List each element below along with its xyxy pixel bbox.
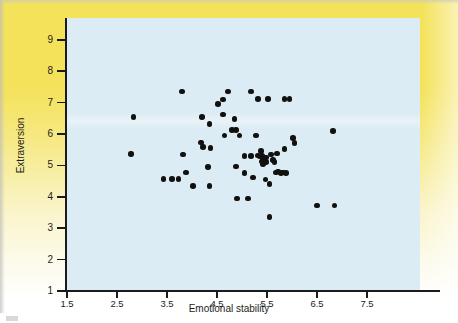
y-tick-label: 6 (31, 129, 53, 139)
data-point (234, 196, 240, 202)
x-tick-mark (316, 291, 318, 298)
y-tick-label: 5 (31, 160, 53, 170)
y-tick-label: 1 (31, 286, 53, 296)
data-point (233, 164, 239, 170)
y-tick-label: 9 (31, 35, 53, 45)
y-axis-line (65, 18, 67, 292)
caption-marker (6, 316, 18, 321)
y-axis-title: Extraversion (15, 98, 26, 194)
data-point (220, 112, 226, 118)
x-tick-mark (266, 291, 268, 298)
y-tick-label: 3 (31, 223, 53, 233)
data-point (282, 146, 288, 152)
y-tick-label: 4 (31, 192, 53, 202)
data-point (180, 152, 186, 158)
data-point (274, 151, 280, 157)
page-edge-top (0, 0, 458, 4)
y-tick-label: 8 (31, 66, 53, 76)
y-tick-mark (57, 133, 65, 135)
data-point (176, 176, 182, 182)
page-edge-left (0, 0, 5, 323)
data-point (232, 116, 238, 122)
y-tick-mark (57, 290, 65, 292)
data-point (169, 176, 175, 182)
x-tick-mark (116, 291, 118, 298)
x-tick-mark (366, 291, 368, 298)
data-point (245, 196, 251, 202)
x-axis-title: Emotional stability (0, 303, 458, 314)
y-tick-mark (57, 196, 65, 198)
data-point (287, 96, 293, 102)
x-tick-mark (166, 291, 168, 298)
data-point (265, 96, 271, 102)
data-point (215, 101, 221, 107)
data-point (283, 170, 289, 176)
y-tick-mark (57, 259, 65, 261)
x-axis-line (65, 290, 440, 292)
y-tick-mark (57, 39, 65, 41)
data-point (255, 96, 261, 102)
y-tick-mark (57, 227, 65, 229)
data-point (190, 183, 196, 189)
data-point (199, 114, 205, 120)
data-point (242, 153, 248, 159)
page-edge-bottom (0, 313, 458, 323)
data-point (207, 183, 213, 189)
data-point (253, 133, 259, 139)
y-tick-label: 2 (31, 255, 53, 265)
y-tick-mark (57, 102, 65, 104)
y-tick-label: 7 (31, 98, 53, 108)
x-tick-mark (66, 291, 68, 298)
data-point (220, 97, 226, 103)
data-point (314, 203, 320, 209)
data-point (131, 114, 137, 120)
scatter-plot-figure: 123456789 1.52.53.54.55.56.57.5 Extraver… (0, 0, 458, 323)
data-point (205, 164, 211, 170)
data-point (161, 176, 167, 182)
data-point (248, 153, 254, 159)
x-tick-mark (216, 291, 218, 298)
data-point (292, 140, 298, 146)
data-point (128, 151, 134, 157)
data-point (207, 121, 213, 127)
y-tick-mark (57, 70, 65, 72)
data-point (263, 159, 269, 165)
data-point (250, 175, 256, 181)
data-point (200, 144, 206, 150)
data-point (330, 128, 336, 134)
y-tick-mark (57, 165, 65, 167)
